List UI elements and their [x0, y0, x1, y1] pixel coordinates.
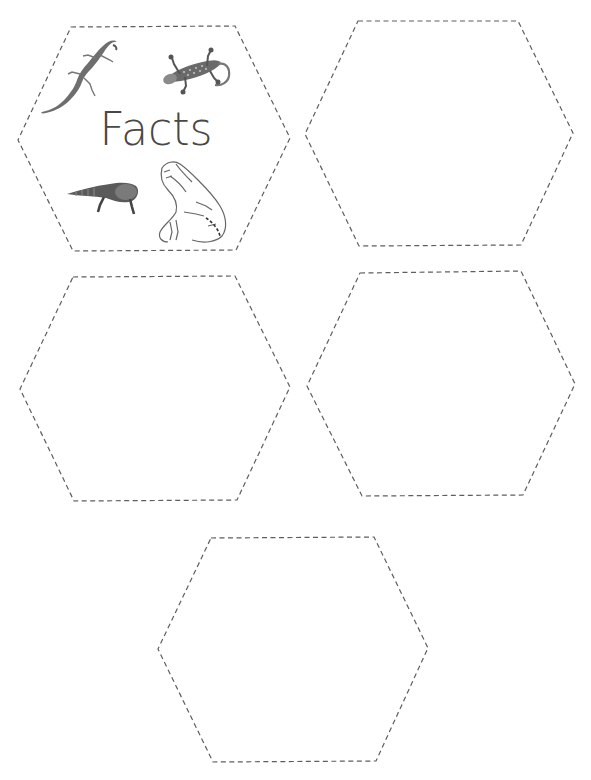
- lizard-gecko-icon: [162, 48, 229, 95]
- lizard-gila-monster-icon: [67, 183, 138, 214]
- hexagon-card-2: [305, 21, 573, 246]
- worksheet: [0, 0, 591, 780]
- hexagon-card-4: [307, 271, 575, 496]
- hexagon-cut-line: [20, 276, 290, 501]
- lizard-iguana-icon: [159, 162, 225, 242]
- card-title-facts: Facts: [100, 100, 211, 158]
- hexagon-cut-line: [307, 271, 575, 496]
- hexagon-card-3: [20, 276, 290, 501]
- hexagon-card-5: [158, 537, 428, 762]
- hexagon-cut-line: [158, 537, 428, 762]
- hexagon-cut-line: [305, 21, 573, 246]
